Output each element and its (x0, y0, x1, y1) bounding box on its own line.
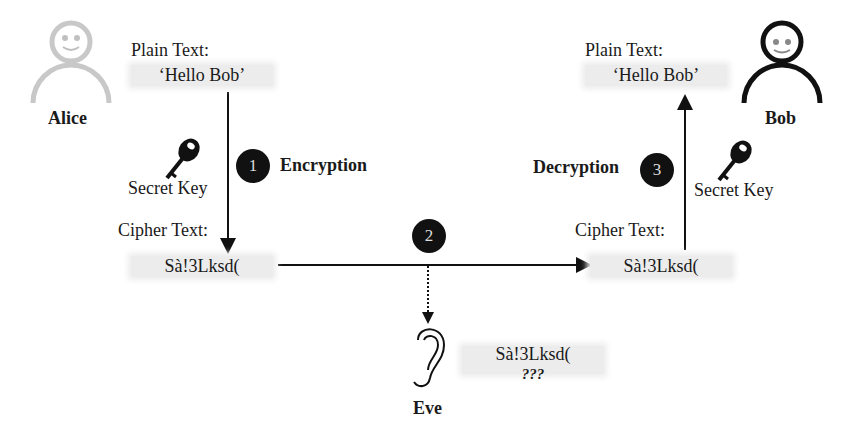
bob-avatar-icon (744, 23, 820, 103)
alice-label: Alice (48, 108, 87, 129)
step-3-label: Decryption (533, 157, 619, 178)
alice-cipher-label: Cipher Text: (118, 220, 208, 241)
bob-cipher-value: Sà!3Lksd( (590, 256, 732, 277)
eve-cipher-value: Sà!3Lksd( (462, 344, 604, 365)
step-1-badge: 1 (236, 149, 270, 183)
bob-plain-value: ‘Hello Bob’ (585, 65, 727, 86)
alice-key-icon (167, 134, 204, 178)
alice-plain-label: Plain Text: (131, 40, 209, 61)
ear-icon (414, 329, 444, 386)
alice-key-label: Secret Key (128, 178, 207, 199)
alice-avatar-icon (33, 23, 109, 103)
alice-cipher-value: Sà!3Lksd( (131, 256, 273, 277)
bob-plain-label: Plain Text: (585, 40, 663, 61)
step-3-badge: 3 (640, 153, 674, 187)
bob-cipher-label: Cipher Text: (575, 220, 665, 241)
alice-plain-value: ‘Hello Bob’ (131, 65, 273, 86)
bob-key-icon (719, 136, 756, 180)
step-2-badge: 2 (412, 219, 446, 253)
bob-key-label: Secret Key (694, 180, 773, 201)
bob-label: Bob (765, 108, 796, 129)
eve-label: Eve (413, 398, 442, 419)
step-1-label: Encryption (280, 155, 367, 176)
eve-unknown: ??? (462, 366, 604, 383)
